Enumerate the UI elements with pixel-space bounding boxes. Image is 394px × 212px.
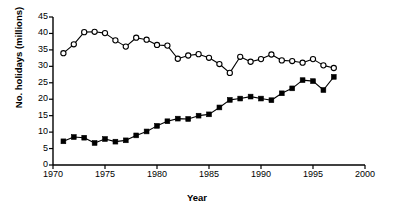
x-tick-label-2000: 2000 (343, 170, 387, 179)
chart-figure: No. holidays (millions) Year 05101520253… (0, 0, 394, 212)
x-tick-label-1975: 1975 (83, 170, 127, 179)
x-tick-label-1970: 1970 (31, 170, 75, 179)
x-tick-label-1985: 1985 (187, 170, 231, 179)
x-tick-label-1980: 1980 (135, 170, 179, 179)
x-tick-label-1990: 1990 (239, 170, 283, 179)
x-tick-label-1995: 1995 (291, 170, 335, 179)
x-axis-tick-labels: 1970197519801985199019952000 (0, 0, 394, 212)
